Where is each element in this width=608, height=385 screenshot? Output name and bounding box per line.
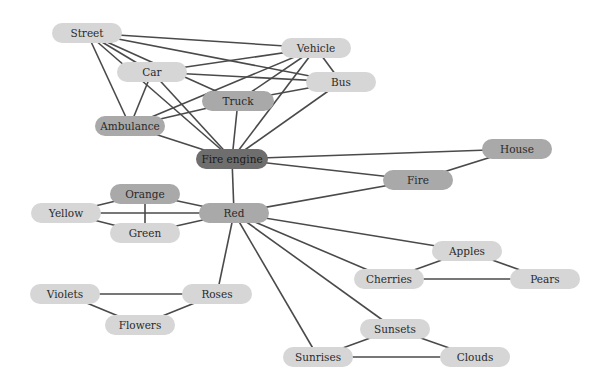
node-label: Red — [224, 207, 245, 219]
node-fire: Fire — [383, 170, 453, 190]
node-sunrises: Sunrises — [283, 347, 353, 367]
node-label: Roses — [201, 288, 232, 300]
node-ambulance: Ambulance — [95, 116, 165, 136]
node-label: Flowers — [119, 319, 162, 331]
node-label: Fire engine — [201, 153, 262, 165]
node-yellow: Yellow — [31, 203, 101, 223]
node-truck: Truck — [202, 91, 274, 111]
node-label: Clouds — [457, 351, 494, 363]
node-roses: Roses — [182, 284, 252, 304]
concept-map-diagram: StreetVehicleCarBusTruckAmbulanceFire en… — [0, 0, 608, 385]
node-label: Car — [142, 66, 161, 78]
node-bus: Bus — [306, 72, 376, 92]
node-orange: Orange — [110, 184, 180, 204]
node-label: Orange — [125, 188, 165, 200]
node-label: Cherries — [366, 273, 412, 285]
node-label: Bus — [331, 76, 351, 88]
node-cherries: Cherries — [354, 269, 424, 289]
node-sunsets: Sunsets — [360, 319, 430, 339]
edge-red-apples — [234, 213, 467, 251]
node-label: Vehicle — [297, 42, 335, 54]
node-green: Green — [110, 223, 180, 243]
node-label: Pears — [530, 273, 559, 285]
edge-fire_engine-house — [232, 149, 517, 159]
node-label: Violets — [47, 288, 83, 300]
node-apples: Apples — [432, 241, 502, 261]
node-violets: Violets — [30, 284, 100, 304]
node-house: House — [482, 139, 552, 159]
node-label: Apples — [449, 245, 485, 257]
node-pears: Pears — [510, 269, 580, 289]
node-vehicle: Vehicle — [281, 38, 351, 58]
node-label: Fire — [407, 174, 429, 186]
node-flowers: Flowers — [105, 315, 175, 335]
node-street: Street — [52, 23, 122, 43]
node-label: Green — [129, 227, 162, 239]
node-label: Sunsets — [374, 323, 416, 335]
node-label: Street — [70, 27, 103, 39]
node-label: Sunrises — [295, 351, 341, 363]
node-red: Red — [199, 203, 269, 223]
node-label: House — [500, 143, 534, 155]
node-fire-engine: Fire engine — [196, 149, 268, 169]
node-label: Ambulance — [100, 120, 160, 132]
node-car: Car — [117, 62, 187, 82]
node-label: Yellow — [49, 207, 83, 219]
node-label: Truck — [222, 95, 253, 107]
node-clouds: Clouds — [440, 347, 510, 367]
edge-red-roses — [217, 213, 234, 294]
